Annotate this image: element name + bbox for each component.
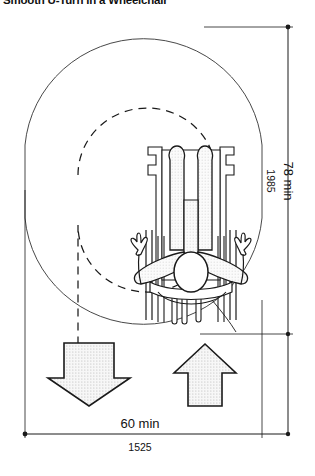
torso [184, 200, 198, 258]
arrow-down-shape [48, 343, 130, 406]
horizontal-dim-terminator-right [286, 432, 290, 436]
right-hand [235, 233, 251, 255]
left-leg [169, 146, 184, 250]
head [174, 252, 208, 292]
vertical-dim-secondary-label: 1985 [265, 169, 277, 193]
vertical-dim-primary-label: 78 min [281, 161, 296, 200]
wheelchair-u-turn-diagram: 78 min 1985 60 min 1525 [0, 0, 315, 476]
wheelchair-user-plan-view [131, 146, 251, 332]
arrow-up-shape [174, 344, 236, 406]
horizontal-dim-terminator-left [23, 432, 28, 437]
exit-arrow-up [174, 344, 236, 406]
left-hand [131, 233, 147, 255]
horizontal-dim-secondary-label: 1525 [128, 441, 152, 453]
vertical-dim-terminator-mid [286, 332, 290, 336]
horizontal-dim-primary-label: 60 min [120, 416, 159, 431]
vertical-dim-terminator-top [286, 25, 291, 30]
right-leg [197, 146, 212, 250]
figure-root: Smooth U-Turn in a Wheelchair [0, 0, 315, 476]
approach-arrow-down [48, 343, 130, 406]
